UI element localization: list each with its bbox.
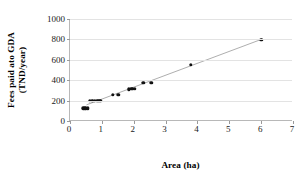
data-point	[142, 81, 145, 84]
y-axis-title: Fees paid ato GDA (TND/year)	[0, 0, 34, 140]
y-axis-tick-labels: 02004006008001000	[33, 0, 65, 185]
data-point	[133, 87, 136, 90]
x-axis-tick-label: 7	[282, 124, 302, 134]
x-axis-tick-label: 4	[186, 124, 206, 134]
x-axis-title: Area (ha)	[69, 160, 292, 170]
data-points-layer	[70, 19, 292, 120]
y-axis-tick-label: 600	[35, 55, 65, 65]
gridline-y	[70, 60, 292, 61]
x-axis-tick-labels: 01234567	[69, 124, 292, 138]
plot-area	[69, 19, 292, 121]
y-axis-title-line1: Fees paid ato GDA	[6, 32, 16, 108]
y-axis-title-line2: (TND/year)	[17, 32, 28, 108]
data-point	[117, 93, 120, 96]
gridline-y	[70, 101, 292, 102]
y-axis-tick-label: 400	[35, 75, 65, 85]
data-point	[86, 107, 89, 110]
data-point	[111, 93, 114, 96]
x-axis-tick-label: 6	[250, 124, 270, 134]
data-point	[189, 63, 192, 66]
gridline-y	[70, 19, 292, 20]
y-axis-tick-label: 800	[35, 34, 65, 44]
y-axis-tick-label: 1000	[35, 14, 65, 24]
x-axis-tick-label: 2	[123, 124, 143, 134]
y-axis-tick-mark	[67, 101, 70, 102]
gridline-y	[70, 39, 292, 40]
y-axis-tick-label: 200	[35, 96, 65, 106]
x-axis-tick-label: 5	[218, 124, 238, 134]
x-axis-tick-label: 3	[155, 124, 175, 134]
data-point	[150, 81, 153, 84]
y-axis-tick-mark	[67, 60, 70, 61]
y-axis-tick-mark	[67, 39, 70, 40]
gridline-y	[70, 80, 292, 81]
y-axis-tick-mark	[67, 19, 70, 20]
y-axis-tick-mark	[67, 80, 70, 81]
x-axis-tick-label: 0	[59, 124, 79, 134]
scatter-chart-figure: Fees paid ato GDA (TND/year) 02004006008…	[0, 0, 307, 185]
x-axis-tick-label: 1	[91, 124, 111, 134]
